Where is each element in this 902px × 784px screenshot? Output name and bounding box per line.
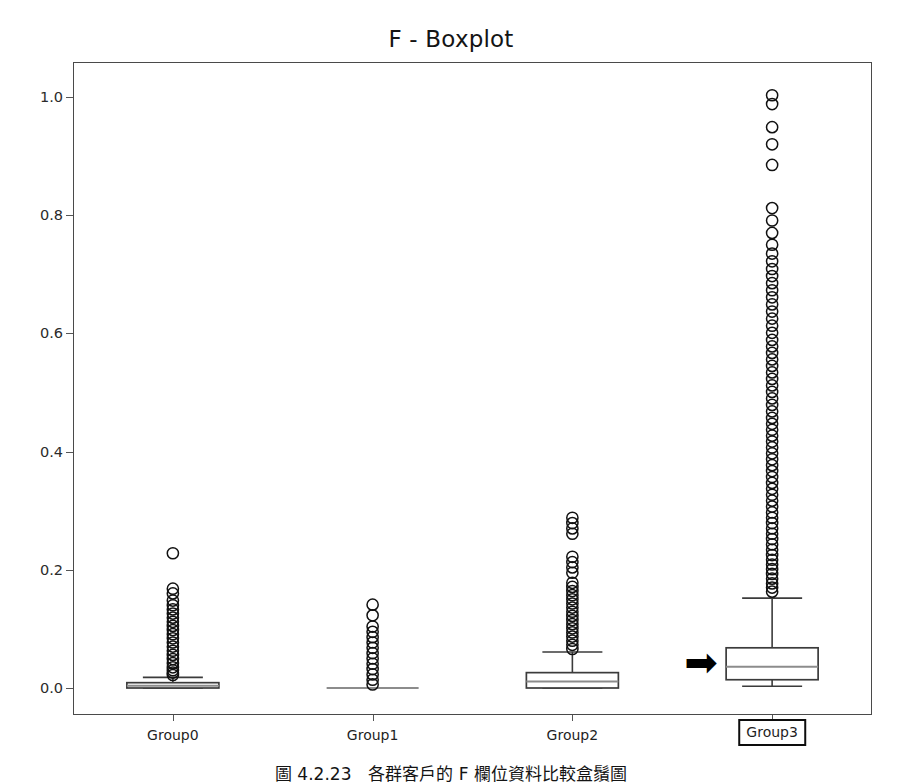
x-axis-tick-label-group1: Group1 [347,727,399,743]
y-axis-tick-label: 0.0 [0,680,63,696]
highlight-arrow-icon: ➡ [684,642,718,682]
x-axis-tick-mark [173,715,174,721]
x-tick-text: Group1 [347,727,399,743]
y-axis-tick-label: 0.6 [0,325,63,341]
x-axis-tick-label-group2: Group2 [547,727,599,743]
y-axis-tick-label: 0.4 [0,444,63,460]
y-axis-tick-mark [66,688,73,689]
x-tick-text: Group0 [147,727,199,743]
chart-title: F - Boxplot [0,26,902,52]
x-tick-text: Group2 [547,727,599,743]
boxplot-figure: F - Boxplot 0.00.20.40.60.81.0 Group0Gro… [0,0,902,784]
x-axis-tick-mark [373,715,374,721]
x-axis-tick-mark [572,715,573,721]
y-axis-tick-mark [66,452,73,453]
y-axis-tick-mark [66,570,73,571]
y-axis-tick-label: 0.8 [0,207,63,223]
y-axis-tick-label: 0.2 [0,562,63,578]
y-axis-tick-mark [66,215,73,216]
x-tick-text: Group3 [738,719,806,746]
y-axis-tick-mark [66,333,73,334]
y-axis-tick-mark [66,97,73,98]
x-axis-tick-label-group0: Group0 [147,727,199,743]
y-axis-tick-label: 1.0 [0,89,63,105]
figure-caption: 圖 4.2.23 各群客戶的 F 欄位資料比較盒鬚圖 [0,760,902,784]
plot-area [73,62,872,715]
x-axis-tick-label-group3: Group3 [738,724,806,740]
